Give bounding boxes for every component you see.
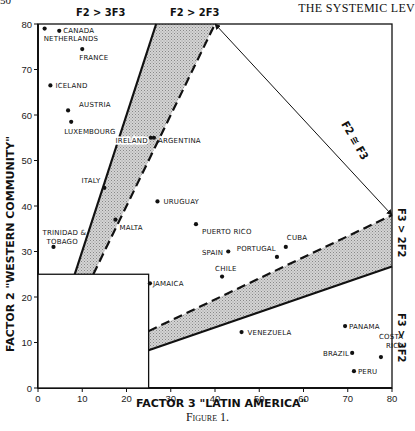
point-label: SPAIN [202,249,223,257]
annotation-f3-gt-3f2: F3 > 3F2 [395,313,408,362]
point-label: IRELAND [116,137,148,145]
point-label: PERU [358,368,377,376]
figure-caption: Figure 1. [0,410,415,425]
data-point [69,120,73,124]
x-tick-label: 0 [35,393,40,404]
y-tick-label: 60 [21,110,32,121]
point-label: CHILE [215,265,237,273]
annotation-f3-gt-2f2: F3 > 2F2 [395,208,408,257]
annotation-f2-eq-f3: F2 ≅ F3 [338,119,371,162]
point-label: FRANCE [79,54,108,62]
data-point [350,351,354,355]
data-point [43,26,47,30]
point-label: URUGUAY [163,198,199,206]
y-tick-label: 0 [27,383,32,394]
data-point [102,186,106,190]
point-label: ARGENTINA [158,137,201,145]
x-tick-label: 20 [121,393,132,404]
point-label: AUSTRIA [79,101,111,109]
excluded-box-rect [38,274,149,388]
point-label: JAMAICA [152,280,184,288]
y-tick-label: 80 [21,19,32,30]
y-tick-label: 10 [21,337,32,348]
y-tick-label: 50 [21,155,32,166]
annotation-f2-gt-2f3: F2 > 2F3 [170,6,219,19]
data-point [379,355,383,359]
x-tick-label: 70 [342,393,353,404]
data-point [113,218,117,222]
data-point [220,274,224,278]
point-label: BRAZIL [323,350,349,358]
point-label: VENEZUELA [248,329,292,337]
data-point [284,245,288,249]
reference-line-2 [215,24,392,215]
data-point [57,29,61,33]
y-tick-label: 40 [21,201,32,212]
y-tick-label: 20 [21,292,32,303]
x-tick-label: 80 [387,393,398,404]
y-tick-label: 70 [21,64,32,75]
data-point [152,136,156,140]
x-tick-label: 10 [77,393,88,404]
y-axis-title: FACTOR 2 "WESTERN COMMUNITY" [4,136,17,352]
data-point [155,199,159,203]
data-point [194,222,198,226]
excluded-box [38,274,149,388]
point-label: CUBA [287,234,307,242]
data-point [226,249,230,253]
annotation-f2-gt-3f3: F2 > 3F3 [76,6,125,19]
point-label: ICELAND [55,82,87,90]
point-label: PANAMA [349,323,380,331]
data-point [275,255,279,259]
data-point [148,281,152,285]
point-label: MALTA [119,224,142,232]
y-tick-label: 30 [21,246,32,257]
data-point [239,330,243,334]
data-point [343,324,347,328]
data-point [352,369,356,373]
point-label: LUXEMBOURG [64,128,116,136]
x-axis-title: FACTOR 3 "LATIN AMERICA" [136,397,306,410]
point-label: NETHERLANDS [44,35,99,43]
point-label: ITALY [82,177,101,185]
data-point [80,47,84,51]
point-label: TOBAGO [45,238,78,246]
point-label: PUERTO RICO [202,228,252,236]
point-label: PORTUGAL [237,245,276,253]
data-point [48,83,52,87]
point-label: TRINIDAD & [41,229,86,237]
data-point [66,108,70,112]
scatter-chart: 0102030405060708001020304050607080 CANAD… [0,0,415,431]
